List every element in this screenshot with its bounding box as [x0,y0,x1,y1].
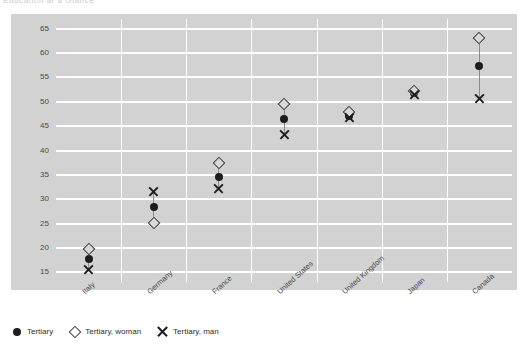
data-point-cross-x[interactable] [213,183,224,194]
filled-circle-icon [11,326,22,337]
data-point-cross-x[interactable] [83,264,94,275]
data-point-open-diamond[interactable] [473,32,486,45]
clipped-header-text: Education at a Glance [0,0,528,8]
data-point-open-diamond[interactable] [278,98,291,111]
legend-label: Tertiary [27,328,53,336]
open-diamond-icon [69,326,80,337]
gridline [56,76,512,78]
plot-panel: 1520253035404550556065 [11,14,517,290]
data-point-filled-circle[interactable] [215,173,223,181]
cross-x-icon-glyph [157,326,168,337]
category-divider [121,19,122,282]
cross-x-icon [157,326,168,337]
legend-item[interactable]: Tertiary, man [157,326,219,337]
gridline [56,150,512,152]
gridline [56,198,512,200]
clipped-header-label: Education at a Glance [0,0,528,5]
chart-root: Education at a Glance 152025303540455055… [0,0,528,350]
gridline [56,247,512,249]
data-point-cross-x[interactable] [148,186,159,197]
data-point-cross-x[interactable] [344,112,355,123]
data-point-filled-circle[interactable] [280,115,288,123]
data-point-open-diamond[interactable] [147,216,160,229]
data-point-cross-x[interactable] [279,129,290,140]
gridline [56,28,512,30]
y-axis-tick-label: 25 [40,220,49,228]
legend-label: Tertiary, woman [85,328,141,336]
gridline [56,52,512,54]
y-axis-tick-label: 40 [40,147,49,155]
y-axis-tick-label: 55 [40,73,49,81]
category-divider [382,19,383,282]
filled-circle-icon-glyph [13,328,21,336]
y-axis-tick-label: 30 [40,195,49,203]
data-point-cross-x[interactable] [409,89,420,100]
data-point-filled-circle[interactable] [150,203,158,211]
data-point-filled-circle[interactable] [475,62,483,70]
gridline [56,271,512,273]
gridline [56,174,512,176]
y-axis-tick-label: 50 [40,98,49,106]
legend-item[interactable]: Tertiary, woman [69,326,141,337]
y-axis-tick-label: 35 [40,171,49,179]
y-axis-tick-label: 45 [40,122,49,130]
category-divider [317,19,318,282]
data-point-open-diamond[interactable] [212,156,225,169]
legend-label: Tertiary, man [173,328,219,336]
legend-item[interactable]: Tertiary [11,326,53,337]
data-point-open-diamond[interactable] [82,243,95,256]
category-divider [447,19,448,282]
x-axis-labels: ItalyGermanyFranceUnited StatesUnited Ki… [11,290,517,320]
y-axis-tick-label: 65 [40,25,49,33]
plot-area: 1520253035404550556065 [56,19,512,282]
chart-legend: TertiaryTertiary, womanTertiary, man [11,326,219,337]
y-axis-tick-label: 15 [40,268,49,276]
data-point-cross-x[interactable] [474,93,485,104]
y-axis-tick-label: 60 [40,49,49,57]
category-divider [186,19,187,282]
open-diamond-icon-glyph [68,325,81,338]
category-divider [251,19,252,282]
gridline [56,223,512,225]
y-axis-tick-label: 20 [40,244,49,252]
